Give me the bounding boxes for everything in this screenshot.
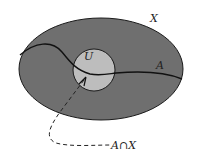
label-u: U — [84, 50, 94, 63]
label-x: X — [149, 12, 159, 25]
label-intersection: A∩X — [110, 139, 137, 152]
topology-diagram: X U A A∩X — [0, 0, 197, 160]
label-a: A — [155, 59, 164, 72]
